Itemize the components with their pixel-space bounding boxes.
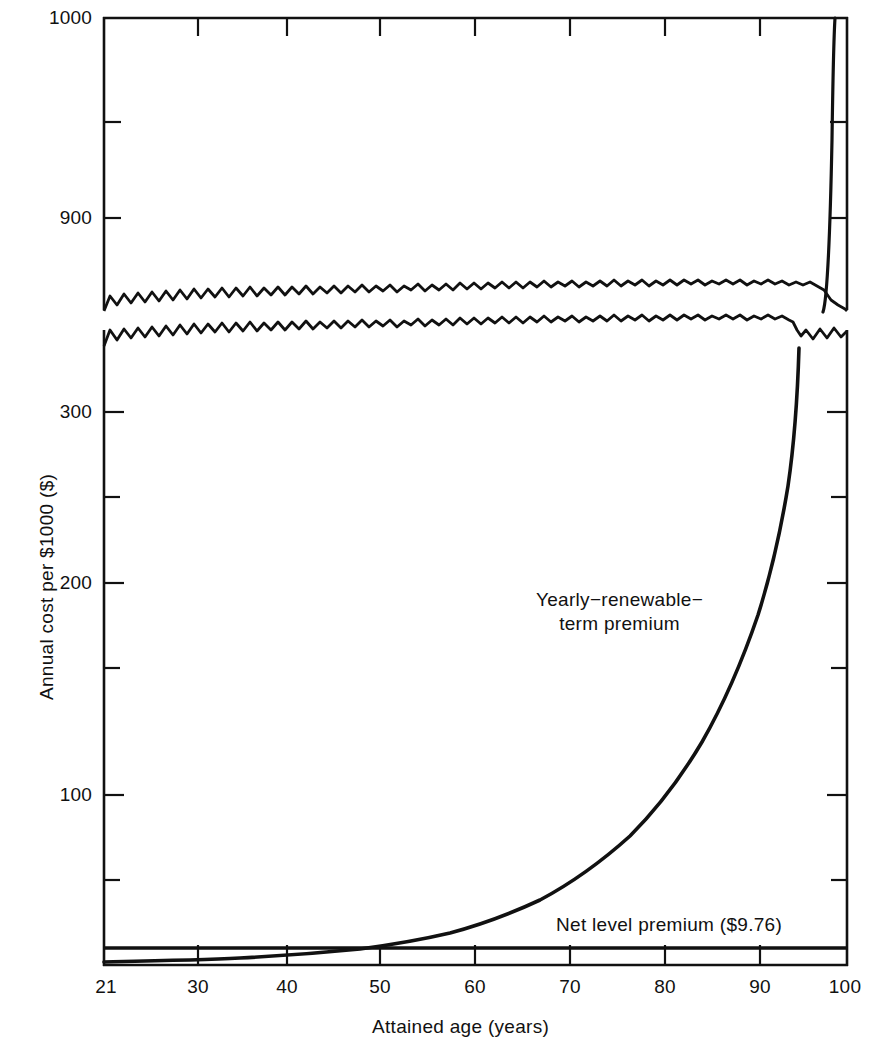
yrt-premium-curve bbox=[104, 348, 799, 962]
xtick-label-70: 70 bbox=[559, 976, 581, 998]
upper-panel-yticks bbox=[104, 122, 847, 218]
yrt-annotation-line-2: term premium bbox=[536, 612, 703, 636]
xtick-label-100: 100 bbox=[829, 976, 861, 998]
xtick-label-80: 80 bbox=[654, 976, 676, 998]
xtick-label-30: 30 bbox=[187, 976, 209, 998]
yrt-curve-upper-segment bbox=[823, 18, 835, 312]
ytick-label-900: 900 bbox=[10, 207, 92, 229]
xtick-label-90: 90 bbox=[749, 976, 771, 998]
xtick-label-21: 21 bbox=[95, 976, 117, 998]
axis-break-marker-lower bbox=[104, 315, 847, 346]
chart-figure: 1000 900 300 200 100 21 30 40 50 60 70 8… bbox=[0, 0, 884, 1064]
xtick-label-50: 50 bbox=[369, 976, 391, 998]
xtick-label-60: 60 bbox=[464, 976, 486, 998]
net-level-premium-annotation: Net level premium ($9.76) bbox=[556, 913, 782, 937]
chart-plot-area bbox=[0, 0, 884, 1064]
lower-panel-frame bbox=[103, 330, 848, 966]
xtick-label-40: 40 bbox=[276, 976, 298, 998]
axis-break-marker-upper bbox=[104, 280, 847, 311]
ytick-label-100: 100 bbox=[10, 784, 92, 806]
yrt-premium-annotation: Yearly−renewable− term premium bbox=[536, 588, 703, 637]
y-axis-title: Annual cost per $1000 ($) bbox=[36, 474, 58, 700]
upper-panel-frame bbox=[103, 17, 848, 310]
upper-panel-xticks bbox=[198, 18, 760, 36]
lower-panel-yticks bbox=[104, 412, 847, 880]
x-axis-title: Attained age (years) bbox=[372, 1016, 549, 1038]
ytick-label-1000: 1000 bbox=[10, 7, 92, 29]
ytick-label-300: 300 bbox=[10, 401, 92, 423]
yrt-annotation-line-1: Yearly−renewable− bbox=[536, 588, 703, 612]
